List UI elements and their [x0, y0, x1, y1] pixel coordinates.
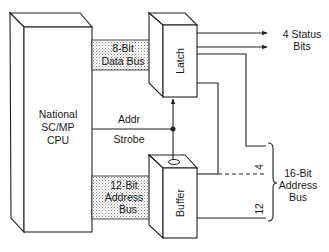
block-diagram: National SC/MP CPU 8-Bit Data Bus 12-Bit… [0, 0, 329, 252]
address-bus-label-line3: Bus [119, 203, 137, 215]
address-bus-label-line1: 12-Bit [110, 179, 138, 191]
cpu-block: National SC/MP CPU [10, 13, 92, 232]
junction-dot [171, 127, 176, 132]
address-bus-label-line2: Address [105, 191, 144, 203]
status-bits-label-line2: Bits [293, 40, 311, 52]
cpu-label-line1: National [39, 108, 78, 120]
data-bus-label-line1: 8-Bit [112, 42, 134, 54]
data-bus-label-line2: Data Bus [101, 55, 144, 67]
data-bus: 8-Bit Data Bus [92, 40, 158, 70]
address-bus-16bit: 16-Bit Address Bus [268, 143, 317, 221]
buffer-address-lines: 4 12 [197, 164, 266, 218]
addr-label: Addr [118, 113, 141, 125]
address-bus-12bit: 12-Bit Address Bus [92, 176, 158, 219]
bit-count-12: 12 [254, 203, 265, 215]
buffer-label: Buffer [174, 189, 186, 217]
latch-block: Latch [149, 13, 197, 97]
buffer-block: Buffer [149, 155, 197, 238]
latch-address-lines [197, 54, 266, 174]
bit-count-4: 4 [254, 164, 265, 170]
brace-icon [268, 143, 277, 221]
cpu-label-line3: CPU [47, 134, 69, 146]
cpu-label-line2: SC/MP [41, 121, 74, 133]
address-bus-16-label-line3: Bus [289, 191, 307, 203]
status-bits-label-line1: 4 Status [283, 28, 322, 40]
latch-label: Latch [174, 48, 186, 74]
strobe-label: Strobe [114, 133, 145, 145]
address-bus-16-label-line2: Address [279, 179, 318, 191]
address-bus-16-label-line1: 16-Bit [284, 167, 312, 179]
status-bits-output: 4 Status Bits [197, 28, 321, 52]
addr-strobe-signal: Addr Strobe [92, 99, 176, 160]
